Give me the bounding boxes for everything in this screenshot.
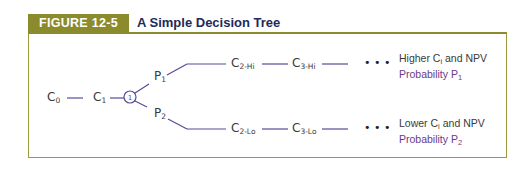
outcome-hi: Higher Ci and NPV Probability P1 — [399, 52, 487, 84]
ellipsis-hi: • • • — [364, 56, 390, 69]
prob-p2: P2 — [154, 106, 166, 121]
outcome-lo: Lower Ci and NPV Probability P2 — [399, 117, 485, 149]
node-c3-lo: C3-Lo — [292, 121, 317, 136]
node-c1: C1 — [93, 90, 106, 105]
node-c0: C0 — [47, 90, 60, 105]
node-c2-hi: C2-Hi — [231, 56, 255, 71]
decision-node-label: 1 — [128, 94, 132, 102]
node-c3-hi: C3-Hi — [292, 56, 316, 71]
prob-p1: P1 — [154, 69, 166, 84]
ellipsis-lo: • • • — [364, 121, 390, 134]
node-c2-lo: C2-Lo — [231, 121, 256, 136]
